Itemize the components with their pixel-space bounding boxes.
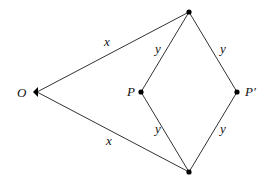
edge-o-bottom	[37, 92, 189, 172]
edge-label-x: x	[103, 34, 110, 49]
origin-marker-icon	[33, 87, 38, 97]
edge-top-pprime	[189, 12, 237, 92]
edge-pprime-bottom	[189, 92, 237, 172]
edge-label-y: y	[218, 41, 226, 56]
edge-label-y: y	[153, 41, 161, 56]
point-p	[138, 89, 143, 94]
edge-top-p	[141, 12, 189, 92]
edge-label-x: x	[105, 133, 112, 148]
diagram-svg: xxyyyyOPP′	[0, 0, 269, 183]
path-diagram: xxyyyyOPP′	[0, 0, 269, 183]
point-label-pprime: P′	[244, 84, 256, 99]
point-pprime	[234, 89, 239, 94]
edge-label-y: y	[218, 121, 226, 136]
point-label-p: P	[126, 84, 135, 99]
point-bottom	[186, 169, 191, 174]
point-top	[186, 9, 191, 14]
edge-o-top	[37, 12, 189, 92]
point-label-o: O	[17, 85, 27, 100]
edge-p-bottom	[141, 92, 189, 172]
edge-label-y: y	[153, 121, 161, 136]
